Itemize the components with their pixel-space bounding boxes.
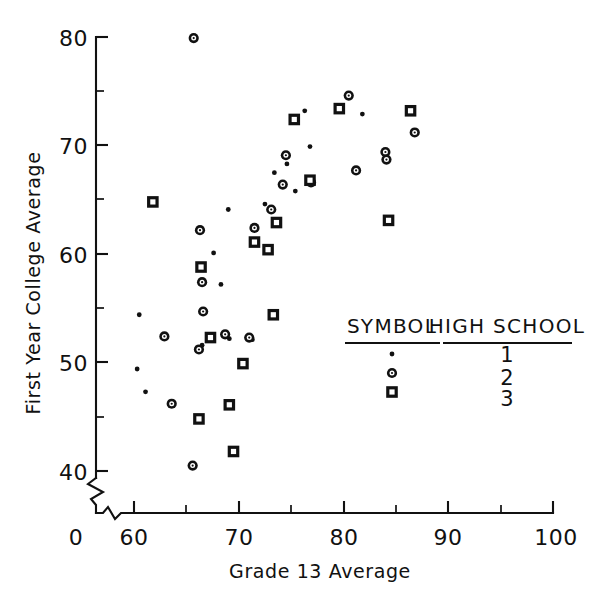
data-point <box>278 179 288 189</box>
data-point <box>159 331 169 341</box>
data-markers-layer <box>135 33 420 471</box>
y-axis-title: First Year College Average <box>22 152 44 415</box>
legend-symbol-dot <box>390 352 395 357</box>
data-point <box>288 114 300 126</box>
x-axis-title: Grade 13 Average <box>229 560 411 582</box>
data-point <box>263 202 268 207</box>
y-tick-label-50: 50 <box>59 351 88 376</box>
legend-symbols-layer <box>386 352 398 398</box>
data-point <box>135 367 140 372</box>
data-point <box>351 165 361 175</box>
data-point <box>285 162 290 167</box>
data-point <box>220 329 230 339</box>
data-point <box>272 170 277 175</box>
data-point <box>193 413 205 425</box>
x-axis-ticks <box>134 501 553 513</box>
legend-symbol-circle <box>387 368 397 378</box>
x-tick-label-0: 0 <box>69 525 84 550</box>
y-axis-break-icon <box>88 478 103 513</box>
y-tick-labels: 80 70 60 50 40 <box>59 26 88 485</box>
data-point <box>194 344 204 354</box>
data-point <box>304 174 316 186</box>
x-axis <box>96 507 553 519</box>
legend-school-value-3: 3 <box>500 387 513 411</box>
series-dot <box>135 108 365 394</box>
data-point <box>224 399 236 411</box>
x-tick-label-80: 80 <box>330 525 359 550</box>
data-point <box>167 399 177 409</box>
data-point <box>249 223 259 233</box>
data-point <box>383 215 395 227</box>
data-point <box>143 389 148 394</box>
data-point <box>197 277 207 287</box>
data-point <box>334 103 346 115</box>
legend-school-header: HIGH SCHOOL <box>429 314 585 338</box>
data-point <box>205 332 217 344</box>
data-point <box>195 225 205 235</box>
data-point <box>271 217 283 229</box>
data-point <box>262 244 274 256</box>
y-axis <box>88 37 103 513</box>
x-tick-label-90: 90 <box>434 525 463 550</box>
y-axis-ticks <box>96 37 108 471</box>
legend-symbol-square <box>386 386 398 398</box>
x-tick-label-100: 100 <box>534 525 578 550</box>
legend-school-value-1: 1 <box>500 343 513 367</box>
legend: SYMBOL HIGH SCHOOL 1 2 3 <box>345 314 585 411</box>
y-tick-label-60: 60 <box>59 243 88 268</box>
data-point <box>405 105 417 117</box>
x-tick-label-60: 60 <box>120 525 149 550</box>
data-point <box>147 196 159 208</box>
data-point <box>198 306 208 316</box>
data-point <box>137 312 142 317</box>
data-point <box>360 112 365 117</box>
data-point <box>293 189 298 194</box>
data-point <box>410 127 420 137</box>
data-point <box>226 207 231 212</box>
data-point <box>188 460 198 470</box>
data-point <box>211 251 216 256</box>
data-point <box>266 204 276 214</box>
legend-symbol-header: SYMBOL <box>347 314 437 338</box>
x-axis-line-with-break <box>96 507 553 519</box>
data-point <box>381 155 391 165</box>
y-tick-label-70: 70 <box>59 134 88 159</box>
plot-canvas: 80 70 60 50 40 0 60 70 80 90 100 Grade 1… <box>0 0 604 594</box>
data-point <box>308 144 313 149</box>
x-tick-labels: 0 60 70 80 90 100 <box>69 525 578 550</box>
data-point <box>268 309 280 321</box>
scatter-plot-figure: 80 70 60 50 40 0 60 70 80 90 100 Grade 1… <box>0 0 604 594</box>
data-point <box>244 332 254 342</box>
data-point <box>189 33 199 43</box>
data-point <box>281 150 291 160</box>
x-tick-label-70: 70 <box>225 525 254 550</box>
data-point <box>228 446 240 458</box>
data-point <box>195 261 207 273</box>
data-point <box>249 236 261 248</box>
data-point <box>219 282 224 287</box>
series-circle <box>159 33 420 471</box>
y-tick-label-40: 40 <box>59 460 88 485</box>
data-point <box>344 90 354 100</box>
y-tick-label-80: 80 <box>59 26 88 51</box>
data-point <box>302 108 307 113</box>
data-point <box>237 358 249 370</box>
